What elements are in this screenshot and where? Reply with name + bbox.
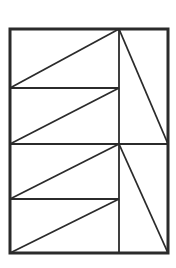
figure-background bbox=[0, 0, 176, 268]
geometric-figure bbox=[0, 0, 176, 268]
figure-canvas bbox=[0, 0, 176, 268]
